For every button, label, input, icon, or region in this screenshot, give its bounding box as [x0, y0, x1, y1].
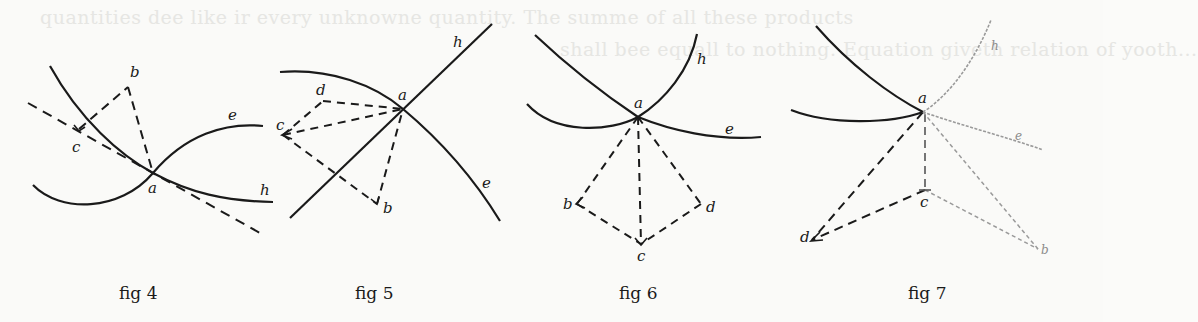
label-d: d: [706, 198, 716, 216]
label-h: h: [697, 50, 707, 68]
label-b: b: [563, 195, 573, 213]
label-c: c: [920, 193, 929, 211]
curve-h-faded: [923, 20, 991, 112]
label-b: b: [130, 63, 140, 81]
dashed-construction: [812, 112, 925, 240]
curve-e-faded: [923, 112, 1043, 150]
label-c: c: [72, 138, 81, 156]
caption-fig-5: fig 5: [355, 283, 393, 303]
label-a: a: [148, 179, 157, 197]
label-e: e: [1015, 129, 1022, 143]
label-c: c: [276, 116, 285, 134]
label-a: a: [918, 89, 927, 107]
caption-fig-7: fig 7: [908, 283, 946, 303]
curve-e: [791, 110, 923, 121]
figure-4: b c a e h: [28, 63, 273, 233]
label-a: a: [634, 94, 643, 112]
label-b: b: [1041, 243, 1049, 257]
label-d: d: [316, 81, 326, 99]
dashed-construction: [577, 117, 701, 244]
label-h: h: [453, 33, 463, 51]
dashed-construction: [283, 101, 403, 204]
dashed-cb: [79, 87, 128, 129]
label-h: h: [991, 39, 999, 53]
figure-6: a h e b d c: [527, 34, 761, 265]
label-a: a: [398, 86, 407, 104]
label-e: e: [482, 174, 491, 192]
label-b: b: [383, 199, 393, 217]
figure-7: a h e c d b: [791, 20, 1049, 257]
line-h: [290, 24, 492, 218]
label-e: e: [725, 120, 734, 138]
curve-h: [816, 26, 923, 112]
label-c: c: [637, 247, 646, 265]
label-e: e: [228, 106, 237, 124]
figure-5: d c a h e b: [276, 24, 500, 221]
arrowhead-b: [576, 197, 585, 208]
curve-h: [535, 34, 697, 117]
curve-h: [50, 66, 273, 202]
label-d: d: [800, 228, 810, 246]
label-h: h: [260, 181, 270, 199]
caption-fig-4: fig 4: [119, 283, 157, 303]
caption-fig-6: fig 6: [619, 283, 657, 303]
